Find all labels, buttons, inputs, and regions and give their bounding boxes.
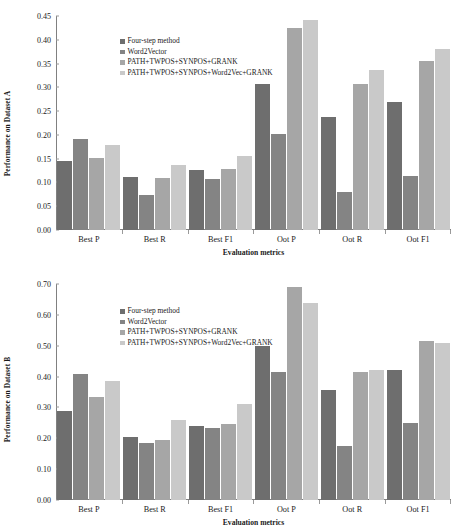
bar <box>303 20 318 230</box>
bar <box>435 49 450 230</box>
legend-swatch-icon <box>120 71 125 76</box>
y-axis-title-b: Performance on Dataset B <box>0 266 18 532</box>
legend-label: Word2Vector <box>128 47 167 58</box>
legend-label: Four-step method <box>128 36 180 47</box>
bar <box>369 70 384 230</box>
plot-area-b: 0.000.100.200.300.400.500.600.70 Best PB… <box>56 284 451 500</box>
x-tick-mark <box>450 500 451 504</box>
legend-item: PATH+TWPOS+SYNPOS+GRANK <box>120 327 273 338</box>
bar-group <box>56 284 122 500</box>
bar <box>221 169 236 230</box>
legend-item: Word2Vector <box>120 47 273 58</box>
bar <box>255 84 270 230</box>
legend-item: Four-step method <box>120 36 273 47</box>
bar <box>139 195 154 230</box>
y-tick-label: 0.40 <box>37 35 56 44</box>
legend-item: PATH+TWPOS+SYNPOS+Word2Vec+GRANK <box>120 68 273 79</box>
chart-dataset-b: Performance on Dataset B 0.000.100.200.3… <box>0 266 463 532</box>
bar <box>123 177 138 230</box>
bar <box>255 346 270 500</box>
chart-dataset-a: Performance on Dataset A 0.000.050.100.1… <box>0 0 463 266</box>
bar <box>353 84 368 230</box>
x-tick-mark <box>188 500 189 504</box>
x-axis-label: Oot F1 <box>385 505 451 514</box>
bar <box>321 117 336 230</box>
x-axis-label: Best F1 <box>188 235 254 244</box>
x-axis-label: Oot P <box>253 235 319 244</box>
bar <box>403 423 418 500</box>
legend-item: PATH+TWPOS+SYNPOS+GRANK <box>120 57 273 68</box>
legend-label: PATH+TWPOS+SYNPOS+GRANK <box>128 57 238 68</box>
bar <box>139 443 154 500</box>
x-tick-mark <box>385 500 386 504</box>
y-tick-label: 0.50 <box>37 341 56 350</box>
bar <box>287 287 302 500</box>
x-axis-label: Best R <box>122 235 188 244</box>
bar <box>105 381 120 500</box>
bar <box>57 161 72 230</box>
bar <box>73 139 88 230</box>
x-tick-mark <box>253 230 254 234</box>
bar-group <box>56 16 122 230</box>
bar <box>337 192 352 230</box>
bar <box>89 397 104 500</box>
y-tick-label: 0.25 <box>37 107 56 116</box>
bar <box>403 176 418 230</box>
x-axis-title-a: Evaluation metrics <box>56 248 451 257</box>
x-axis-label: Oot P <box>253 505 319 514</box>
x-tick-mark <box>319 500 320 504</box>
y-tick-label: 0.30 <box>37 83 56 92</box>
x-tick-mark <box>122 500 123 504</box>
bar <box>369 370 384 500</box>
legend-swatch-icon <box>120 50 125 55</box>
bar <box>189 426 204 500</box>
bar <box>155 178 170 230</box>
legend-item: Word2Vector <box>120 317 273 328</box>
bar-group <box>385 16 451 230</box>
bar <box>435 343 450 500</box>
bar <box>387 102 402 230</box>
bar <box>73 374 88 501</box>
x-axis-label: Best P <box>56 235 122 244</box>
x-axis-title-b: Evaluation metrics <box>56 518 451 527</box>
bar <box>221 424 236 500</box>
x-tick-mark <box>385 230 386 234</box>
plot-area-a: 0.000.050.100.150.200.250.300.350.400.45… <box>56 16 451 230</box>
x-axis-label: Best P <box>56 505 122 514</box>
legend-item: PATH+TWPOS+SYNPOS+Word2Vec+GRANK <box>120 338 273 349</box>
y-tick-label: 0.00 <box>37 226 56 235</box>
bar-group <box>319 284 385 500</box>
y-tick-label: 0.10 <box>37 465 56 474</box>
y-tick-label: 0.60 <box>37 310 56 319</box>
y-tick-label: 0.15 <box>37 154 56 163</box>
legend-label: PATH+TWPOS+SYNPOS+Word2Vec+GRANK <box>128 68 273 79</box>
y-axis-title-a: Performance on Dataset A <box>0 0 18 266</box>
y-tick-label: 0.20 <box>37 434 56 443</box>
y-tick-label: 0.10 <box>37 178 56 187</box>
bar <box>237 404 252 500</box>
legend-swatch-icon <box>120 39 125 44</box>
x-axis-labels-a: Best PBest RBest F1Oot POot ROot F1 <box>56 235 451 244</box>
bar <box>171 165 186 230</box>
y-tick-label: 0.35 <box>37 59 56 68</box>
x-axis-label: Best R <box>122 505 188 514</box>
bar <box>271 372 286 500</box>
y-tick-label: 0.40 <box>37 372 56 381</box>
x-axis-labels-b: Best PBest RBest F1Oot POot ROot F1 <box>56 505 451 514</box>
figure-two-bar-charts: Performance on Dataset A 0.000.050.100.1… <box>0 0 463 532</box>
legend-b: Four-step methodWord2VectorPATH+TWPOS+SY… <box>120 306 273 348</box>
x-axis-label: Oot R <box>319 235 385 244</box>
bar <box>321 390 336 500</box>
x-tick-mark <box>188 230 189 234</box>
legend-label: PATH+TWPOS+SYNPOS+Word2Vec+GRANK <box>128 338 273 349</box>
bar <box>155 440 170 500</box>
x-axis-label: Oot R <box>319 505 385 514</box>
bar <box>205 428 220 501</box>
legend-swatch-icon <box>120 320 125 325</box>
legend-swatch-icon <box>120 60 125 65</box>
bar <box>171 420 186 500</box>
y-tick-label: 0.30 <box>37 403 56 412</box>
legend-swatch-icon <box>120 341 125 346</box>
x-tick-mark <box>450 230 451 234</box>
bar <box>387 370 402 500</box>
